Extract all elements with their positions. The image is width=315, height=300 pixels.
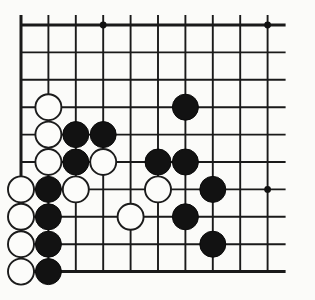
go-board-figure — [0, 0, 315, 300]
black-stone[interactable] — [172, 149, 198, 175]
white-stone[interactable] — [63, 176, 89, 202]
white-stone[interactable] — [35, 149, 61, 175]
white-stone[interactable] — [90, 149, 116, 175]
black-stone[interactable] — [35, 259, 61, 285]
white-stone[interactable] — [35, 94, 61, 120]
white-stone[interactable] — [35, 122, 61, 148]
white-stone[interactable] — [8, 231, 34, 257]
white-stone[interactable] — [145, 176, 171, 202]
white-stone[interactable] — [8, 259, 34, 285]
star-point-icon — [264, 186, 271, 193]
black-stone[interactable] — [172, 204, 198, 230]
black-stone[interactable] — [35, 204, 61, 230]
black-stone[interactable] — [35, 176, 61, 202]
white-stone[interactable] — [8, 176, 34, 202]
black-stone[interactable] — [172, 94, 198, 120]
black-stone[interactable] — [63, 122, 89, 148]
black-stone[interactable] — [200, 176, 226, 202]
star-point-icon — [100, 22, 107, 29]
black-stone[interactable] — [90, 122, 116, 148]
star-point-icon — [264, 22, 271, 29]
black-stone[interactable] — [200, 231, 226, 257]
white-stone[interactable] — [118, 204, 144, 230]
white-stone[interactable] — [8, 204, 34, 230]
black-stone[interactable] — [145, 149, 171, 175]
black-stone[interactable] — [35, 231, 61, 257]
go-board-canvas[interactable] — [0, 0, 315, 300]
black-stone[interactable] — [63, 149, 89, 175]
